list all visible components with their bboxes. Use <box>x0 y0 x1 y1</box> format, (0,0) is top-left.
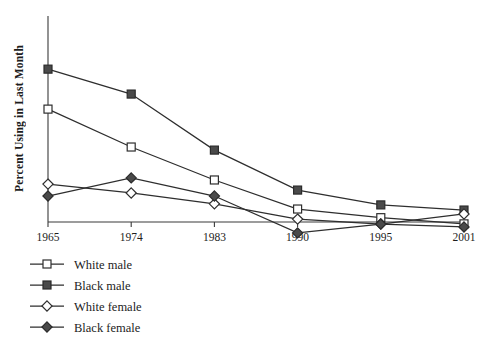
x-tick-label-1995: 1995 <box>369 231 392 243</box>
data-point-black-female-1983 <box>209 191 219 201</box>
chart-figure: Percent Using in Last Month 196519741983… <box>0 0 491 344</box>
series-line-3 <box>48 178 464 233</box>
data-point-white-female-1974 <box>126 188 136 198</box>
data-point-black-male-1990 <box>294 186 302 194</box>
legend-marker-open-diamond <box>42 301 52 311</box>
data-point-black-male-1965 <box>44 65 52 73</box>
x-tick-label-1983: 1983 <box>203 231 226 243</box>
x-tick-label-1965: 1965 <box>37 231 60 243</box>
x-tick-label-2001: 2001 <box>453 231 476 243</box>
x-axis-tick-labels: 196519741983199019952001 <box>37 231 476 243</box>
legend-item-black-male[interactable]: Black male <box>30 279 131 293</box>
data-point-white-female-1965 <box>43 179 53 189</box>
y-axis-label: Percent Using in Last Month <box>13 45 25 192</box>
series-black-female <box>43 173 469 238</box>
legend-label-2: White female <box>74 300 142 314</box>
legend-marker-open-square <box>43 260 51 268</box>
data-point-white-male-1965 <box>44 105 52 113</box>
legend-item-black-female[interactable]: Black female <box>30 321 141 335</box>
series-line-2 <box>48 184 464 224</box>
legend-marker-filled-diamond <box>42 322 52 332</box>
data-point-black-male-1974 <box>127 90 135 98</box>
data-point-white-male-1983 <box>210 176 218 184</box>
data-point-white-female-1990 <box>293 214 303 224</box>
data-point-white-male-1974 <box>127 143 135 151</box>
line-chart-plot: 196519741983199019952001 White maleBlack… <box>0 0 491 344</box>
data-point-black-female-1974 <box>126 173 136 183</box>
data-point-black-male-1983 <box>210 146 218 154</box>
series-line-1 <box>48 69 464 210</box>
series-black-male <box>44 65 468 214</box>
legend-marker-filled-square <box>43 281 51 289</box>
x-tick-label-1974: 1974 <box>120 231 143 243</box>
legend-item-white-female[interactable]: White female <box>30 300 142 314</box>
series-white-male <box>44 105 468 228</box>
data-point-black-female-1965 <box>43 191 53 201</box>
chart-legend: White maleBlack maleWhite femaleBlack fe… <box>30 258 142 335</box>
data-point-black-male-1995 <box>377 201 385 209</box>
data-point-white-male-1990 <box>294 205 302 213</box>
data-series-group <box>43 65 469 238</box>
legend-label-3: Black female <box>74 321 141 335</box>
legend-label-0: White male <box>74 258 132 272</box>
legend-item-white-male[interactable]: White male <box>30 258 132 272</box>
y-axis-label-wrapper: Percent Using in Last Month <box>8 16 30 222</box>
legend-label-1: Black male <box>74 279 131 293</box>
